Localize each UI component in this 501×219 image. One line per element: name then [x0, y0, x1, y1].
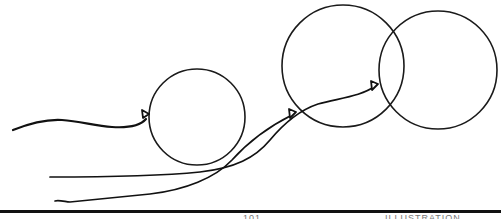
- small-balloon: [149, 69, 245, 165]
- right-balloon-knot: [371, 81, 378, 90]
- small-balloon-string: [13, 119, 146, 130]
- right-balloon: [379, 11, 497, 129]
- right-balloon-string: [50, 86, 375, 177]
- balloon-illustration: [0, 0, 501, 219]
- page-marker: 101: [243, 213, 261, 219]
- right-marker: ILLUSTRATION: [385, 213, 461, 219]
- middle-balloon: [282, 5, 404, 127]
- small-balloon-knot: [142, 110, 149, 118]
